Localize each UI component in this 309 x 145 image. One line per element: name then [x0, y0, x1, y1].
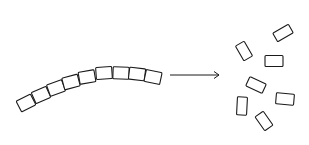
diagram-canvas — [0, 0, 309, 145]
chain-breakup-diagram — [0, 0, 309, 145]
chain-segment — [144, 69, 162, 84]
scattered-segment — [237, 97, 248, 115]
chain-segment — [78, 70, 96, 85]
scattered-segment — [276, 93, 295, 106]
chain-segment — [96, 66, 113, 79]
scattered-segment — [265, 56, 283, 67]
transformation-arrow — [170, 72, 219, 79]
scattered-segment — [255, 111, 273, 131]
chain-segment — [128, 67, 145, 81]
chain-segment — [62, 74, 81, 90]
scattered-segments — [235, 24, 294, 131]
scattered-segment — [246, 77, 267, 94]
chain-segment — [113, 67, 129, 80]
linked-chain — [16, 66, 162, 112]
scattered-segment — [273, 24, 294, 42]
scattered-segment — [235, 41, 252, 61]
